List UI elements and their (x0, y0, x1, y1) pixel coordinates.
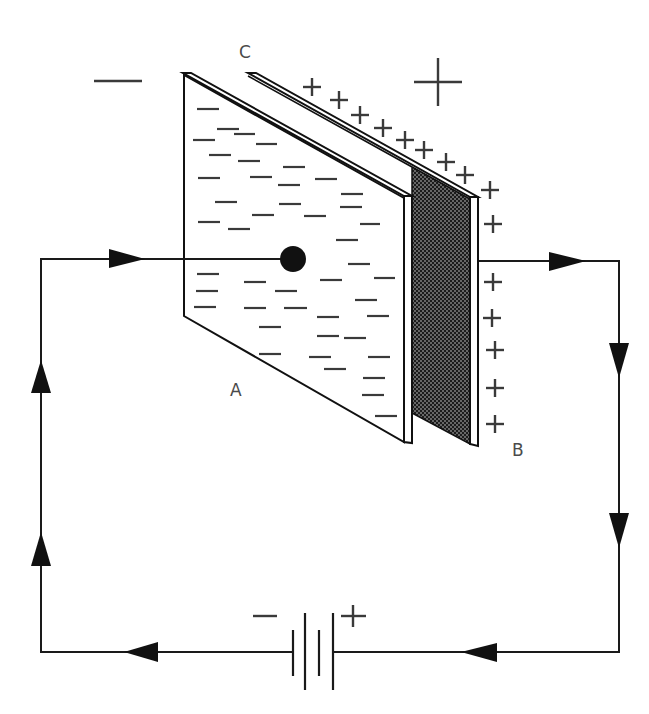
arrow-right-icon (109, 249, 145, 268)
plate-a-side-edge (404, 196, 412, 443)
big-plus-sign (414, 58, 462, 106)
plate-a-terminal-dot (280, 246, 306, 272)
plate-b-side-edge (470, 197, 478, 446)
arrow-left-icon (461, 643, 497, 662)
arrow-left-icon (124, 642, 158, 662)
arrow-down-icon (609, 513, 629, 548)
label-a: A (230, 380, 242, 400)
label-c: C (239, 42, 251, 62)
battery-plus-sign (341, 605, 366, 627)
capacitor-diagram: C A B (0, 0, 649, 714)
arrow-right-icon (549, 252, 586, 271)
battery (253, 605, 366, 690)
arrow-up-icon (31, 532, 51, 566)
label-b: B (512, 440, 524, 460)
arrow-down-icon (609, 343, 629, 378)
arrow-up-icon (31, 360, 51, 393)
